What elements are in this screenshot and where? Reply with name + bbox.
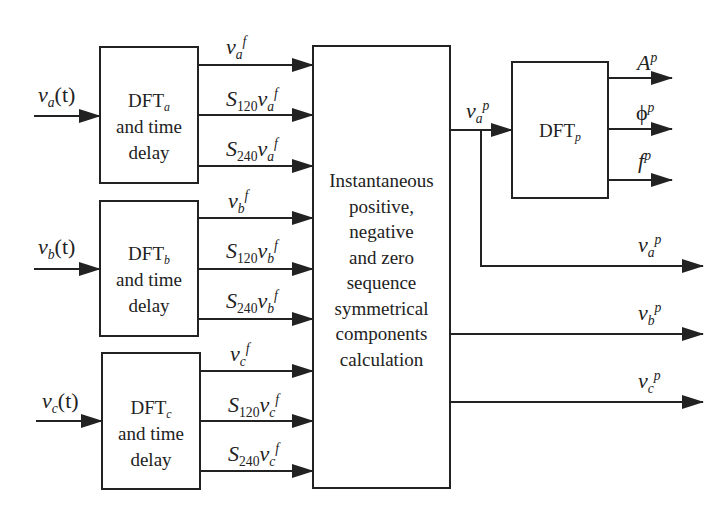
dft-c-label: DFTc and time delay (102, 395, 200, 473)
output-label-s240-va-f: S240vaf (226, 138, 278, 160)
block-diagram: va(t) vb(t) vc(t) DFTa and time delay DF… (0, 0, 712, 514)
dftp-output-frequency: fp (638, 150, 651, 172)
output-label-s240-vc-f: S240vcf (228, 443, 279, 465)
dftp-input-label-va-p: vap (466, 100, 489, 122)
dft-b-label: DFTb and time delay (100, 241, 198, 319)
dftp-label: DFTp (512, 118, 608, 144)
input-label-va: va(t) (38, 84, 75, 106)
output-label-s240-vb-f: S240vbf (226, 290, 278, 312)
output-label-vb-f: vbf (228, 190, 248, 212)
input-label-vc: vc(t) (42, 390, 79, 412)
input-label-vb: vb(t) (38, 236, 75, 258)
central-block-label: Instantaneous positive, negative and zer… (313, 168, 450, 372)
output-label-s120-va-f: S120vaf (226, 88, 278, 110)
dft-a-label: DFTa and time delay (100, 88, 198, 166)
output-label-va-f: vaf (226, 36, 246, 58)
output-label-s120-vb-f: S120vbf (226, 240, 278, 262)
dftp-output-amplitude: Ap (637, 52, 657, 74)
output-label-vc-p: vcp (638, 370, 661, 392)
output-label-vc-f: vcf (230, 343, 250, 365)
output-label-s120-vc-f: S120vcf (228, 394, 279, 416)
output-label-va-p: vap (638, 234, 661, 256)
output-label-vb-p: vbp (638, 302, 661, 324)
dftp-output-phase: ϕp (636, 102, 654, 124)
